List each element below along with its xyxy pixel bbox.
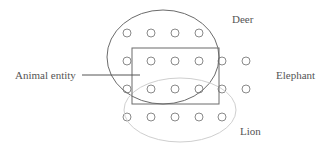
entity-dot — [171, 29, 179, 37]
entity-dot — [147, 57, 155, 65]
entity-dot — [195, 57, 203, 65]
dot-grid — [123, 29, 250, 121]
entity-dot — [147, 113, 155, 121]
entity-dot — [123, 85, 131, 93]
deer-label: Deer — [232, 14, 253, 25]
entity-dot — [218, 113, 226, 121]
elephant-label: Elephant — [276, 70, 315, 81]
entity-dot — [171, 113, 179, 121]
lion-label: Lion — [240, 126, 261, 137]
entity-dot — [171, 57, 179, 65]
entity-dot — [195, 29, 203, 37]
animal-entity-label: Animal entity — [15, 70, 76, 81]
entity-dot — [242, 85, 250, 93]
deer-set-ellipse — [107, 10, 219, 104]
entity-dot — [242, 57, 250, 65]
entity-dot — [123, 57, 131, 65]
entity-dot — [123, 29, 131, 37]
entity-dot — [147, 85, 155, 93]
entity-dot — [171, 85, 179, 93]
entity-dot — [195, 85, 203, 93]
elephant-set-rectangle — [132, 48, 219, 104]
entity-dot — [147, 29, 155, 37]
entity-dot — [195, 113, 203, 121]
